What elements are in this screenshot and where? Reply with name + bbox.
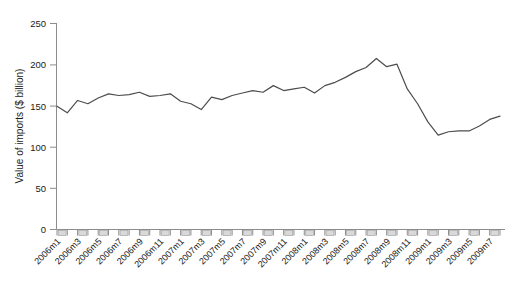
y-tick-label: 50 — [35, 183, 46, 194]
y-axis-title: Value of imports ($ billion) — [14, 69, 25, 184]
data-series-line — [57, 58, 500, 135]
x-tick-band — [305, 231, 313, 236]
x-tick-band — [470, 231, 478, 236]
y-tick-label: 250 — [30, 18, 46, 29]
y-axis-ticks: 0 50 100 150 200 250 — [30, 18, 56, 235]
x-tick-band — [202, 231, 210, 236]
x-tick-band — [491, 231, 499, 236]
x-axis-labels: 2006m12006m32006m52006m72006m92006m11200… — [32, 236, 495, 269]
x-tick-band — [285, 231, 293, 236]
x-tick-band — [450, 231, 458, 236]
x-tick-band — [120, 231, 128, 236]
x-tick-band — [141, 231, 149, 236]
x-tick-band — [244, 231, 252, 236]
x-tick-band — [408, 231, 416, 236]
x-tick-band — [367, 231, 375, 236]
x-tick-band — [58, 231, 66, 236]
y-tick-label: 100 — [30, 142, 46, 153]
y-tick-label: 0 — [41, 224, 46, 235]
x-tick-band — [326, 231, 334, 236]
line-chart: Value of imports ($ billion) 0 50 100 15… — [0, 0, 511, 293]
x-tick-band — [264, 231, 272, 236]
y-tick-label: 150 — [30, 101, 46, 112]
x-tick-band — [429, 231, 437, 236]
y-tick-label: 200 — [30, 59, 46, 70]
x-tick-band — [182, 231, 190, 236]
chart-container: Value of imports ($ billion) 0 50 100 15… — [0, 0, 511, 293]
x-tick-band — [99, 231, 107, 236]
x-tick-band — [347, 231, 355, 236]
x-tick-band — [388, 231, 396, 236]
x-tick-band — [161, 231, 169, 236]
x-axis-ticks — [57, 230, 500, 236]
x-tick-band — [79, 231, 87, 236]
x-tick-band — [223, 231, 231, 236]
